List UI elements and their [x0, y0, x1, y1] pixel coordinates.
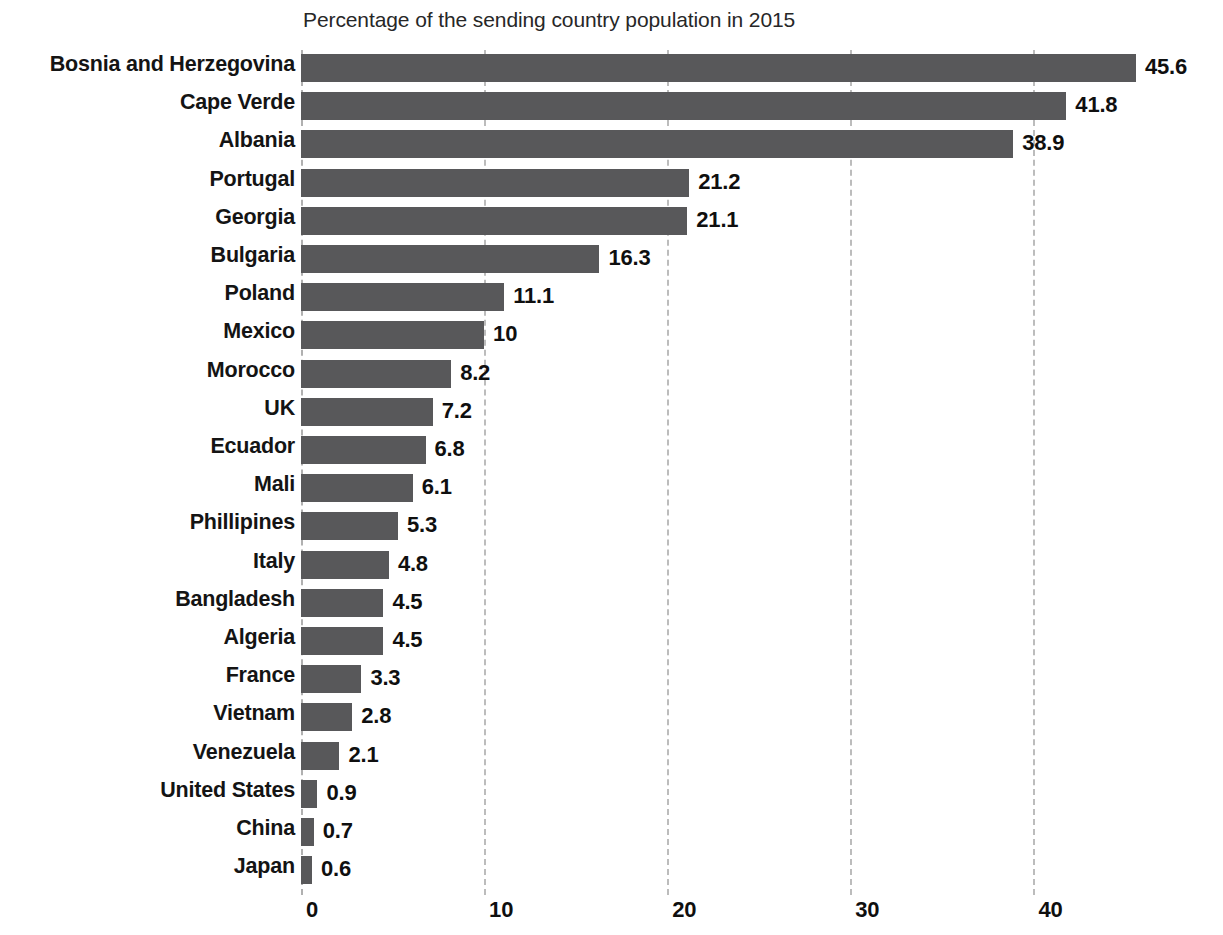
bar-row[interactable]: Venezuela2.1	[301, 738, 1223, 776]
bar-value-label: 21.2	[698, 166, 740, 197]
bar[interactable]	[301, 742, 339, 770]
bar[interactable]	[301, 398, 433, 426]
bar[interactable]	[301, 474, 413, 502]
bar[interactable]	[301, 360, 451, 388]
bar[interactable]	[301, 665, 361, 693]
bar-value-label: 0.9	[326, 777, 356, 808]
bar[interactable]	[301, 207, 687, 235]
bar-row[interactable]: UK7.2	[301, 394, 1223, 432]
x-tick-label: 20	[672, 897, 696, 923]
category-label: Algeria	[224, 623, 296, 652]
bar[interactable]	[301, 856, 312, 884]
bar[interactable]	[301, 512, 398, 540]
bar[interactable]	[301, 436, 426, 464]
bar-value-label: 7.2	[442, 395, 472, 426]
bar-row[interactable]: Cape Verde41.8	[301, 88, 1223, 126]
category-label: France	[226, 661, 295, 690]
bar-row[interactable]: Bulgaria16.3	[301, 241, 1223, 279]
category-label: Bosnia and Herzegovina	[50, 50, 295, 79]
bar-value-label: 0.6	[321, 853, 351, 884]
bar-row[interactable]: Italy4.8	[301, 547, 1223, 585]
category-label: Morocco	[207, 356, 295, 385]
bar-row[interactable]: Phillipines5.3	[301, 508, 1223, 546]
bar[interactable]	[301, 589, 383, 617]
category-label: Mali	[254, 470, 295, 499]
bar[interactable]	[301, 245, 599, 273]
bar-value-label: 11.1	[513, 280, 554, 311]
category-label: United States	[160, 776, 295, 805]
category-label: China	[236, 814, 295, 843]
category-label: Vietnam	[213, 699, 295, 728]
bar-row[interactable]: Bosnia and Herzegovina45.6	[301, 50, 1223, 88]
bar-value-label: 5.3	[407, 509, 437, 540]
bar-chart: Percentage of the sending country popula…	[0, 0, 1223, 935]
bar[interactable]	[301, 818, 314, 846]
category-label: Georgia	[215, 203, 295, 232]
bar-value-label: 2.1	[348, 739, 378, 770]
bar-row[interactable]: China0.7	[301, 814, 1223, 852]
plot-area: Bosnia and Herzegovina45.6Cape Verde41.8…	[301, 50, 1223, 895]
category-label: Phillipines	[190, 508, 295, 537]
category-label: Albania	[219, 126, 295, 155]
bar-value-label: 4.5	[392, 624, 422, 655]
bar[interactable]	[301, 703, 352, 731]
category-label: Poland	[225, 279, 295, 308]
bar-value-label: 2.8	[361, 700, 391, 731]
bar[interactable]	[301, 627, 383, 655]
bar[interactable]	[301, 283, 504, 311]
bar-value-label: 6.1	[422, 471, 452, 502]
bar-value-label: 10	[493, 318, 517, 349]
category-label: Japan	[234, 852, 295, 881]
x-tick-label: 10	[489, 897, 513, 923]
category-label: Italy	[253, 547, 295, 576]
bar-value-label: 21.1	[696, 204, 738, 235]
bar-value-label: 41.8	[1075, 89, 1117, 120]
x-tick-label: 0	[306, 897, 318, 923]
bar-row[interactable]: Georgia21.1	[301, 203, 1223, 241]
bar-row[interactable]: France3.3	[301, 661, 1223, 699]
bar-row[interactable]: Albania38.9	[301, 126, 1223, 164]
bar-value-label: 0.7	[323, 815, 353, 846]
bar-value-label: 8.2	[460, 357, 490, 388]
bar[interactable]	[301, 54, 1136, 82]
bar[interactable]	[301, 92, 1066, 120]
x-tick-label: 30	[855, 897, 879, 923]
bar-row[interactable]: Poland11.1	[301, 279, 1223, 317]
bar-row[interactable]: Japan0.6	[301, 852, 1223, 890]
bar-value-label: 45.6	[1145, 51, 1187, 82]
bar-value-label: 16.3	[608, 242, 650, 273]
category-label: Cape Verde	[180, 88, 295, 117]
category-label: Venezuela	[193, 738, 295, 767]
x-axis: 010203040	[301, 897, 1223, 935]
chart-subtitle: Percentage of the sending country popula…	[303, 8, 795, 32]
bar[interactable]	[301, 321, 484, 349]
category-label: Portugal	[209, 165, 295, 194]
bar-value-label: 4.5	[392, 586, 422, 617]
bar-row[interactable]: Ecuador6.8	[301, 432, 1223, 470]
cropped-title-remnant	[0, 0, 1223, 5]
bar-value-label: 4.8	[398, 548, 428, 579]
bar[interactable]	[301, 169, 689, 197]
category-label: Bangladesh	[175, 585, 295, 614]
bar-row[interactable]: Portugal21.2	[301, 165, 1223, 203]
category-label: Mexico	[223, 317, 295, 346]
bar[interactable]	[301, 780, 317, 808]
x-tick-label: 40	[1038, 897, 1062, 923]
bar-row[interactable]: Mexico10	[301, 317, 1223, 355]
bar-value-label: 3.3	[370, 662, 400, 693]
category-label: Ecuador	[210, 432, 295, 461]
category-label: UK	[264, 394, 295, 423]
bar-row[interactable]: Morocco8.2	[301, 356, 1223, 394]
category-label: Bulgaria	[211, 241, 295, 270]
bar-row[interactable]: Bangladesh4.5	[301, 585, 1223, 623]
bar-value-label: 6.8	[435, 433, 465, 464]
bar-row[interactable]: Vietnam2.8	[301, 699, 1223, 737]
bar-row[interactable]: Algeria4.5	[301, 623, 1223, 661]
bar[interactable]	[301, 551, 389, 579]
bar-row[interactable]: Mali6.1	[301, 470, 1223, 508]
bar-row[interactable]: United States0.9	[301, 776, 1223, 814]
bar[interactable]	[301, 130, 1013, 158]
bar-value-label: 38.9	[1022, 127, 1064, 158]
